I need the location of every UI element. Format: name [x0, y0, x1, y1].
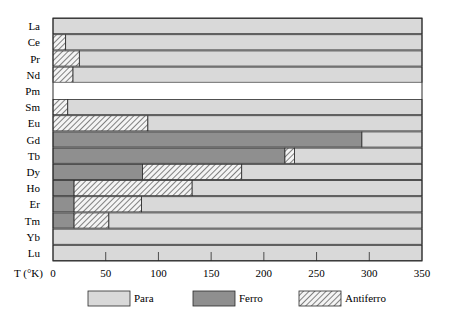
row-label: La [28, 20, 40, 32]
legend-item-antiferro: Antiferro [299, 291, 386, 306]
segment-ferro [53, 197, 74, 212]
segment-ferro [53, 213, 74, 228]
segment-para [294, 148, 422, 163]
legend-label: Para [134, 292, 154, 304]
segment-antiferro [53, 67, 73, 82]
segment-para [53, 229, 422, 244]
row-eu: Eu [28, 116, 422, 131]
segment-antiferro [74, 197, 141, 212]
chart-rows: LaCePrNdPmSmEuGdTbDyHoErTmYbLu [25, 18, 422, 261]
tick-label: 50 [100, 267, 112, 279]
segment-ferro [53, 164, 143, 179]
row-label: Er [30, 198, 41, 210]
row-yb: Yb [27, 229, 422, 244]
row-label: Tm [25, 215, 41, 227]
legend-item-para: Para [88, 291, 154, 306]
row-nd: Nd [27, 67, 422, 82]
row-dy: Dy [27, 164, 422, 179]
empty-bar [53, 83, 422, 99]
row-er: Er [30, 197, 422, 212]
segment-ferro [53, 148, 285, 163]
row-la: La [28, 19, 422, 34]
row-label: Nd [27, 69, 41, 81]
segment-antiferro [74, 213, 109, 228]
segment-para [66, 35, 422, 50]
row-lu: Lu [28, 245, 422, 260]
legend-swatch [193, 291, 235, 306]
segment-para [73, 67, 422, 82]
tick-label: 250 [308, 267, 325, 279]
segment-para [53, 19, 422, 34]
row-label: Dy [27, 166, 41, 178]
tick-label: 200 [256, 267, 273, 279]
row-label: Ho [27, 182, 41, 194]
legend-swatch [88, 291, 130, 306]
row-label: Sm [25, 101, 40, 113]
tick-label: 300 [361, 267, 378, 279]
x-axis-label: T (°K) [14, 267, 43, 280]
row-tb: Tb [28, 148, 422, 163]
tick-label: 0 [50, 267, 56, 279]
segment-antiferro [53, 51, 79, 66]
row-label: Pr [30, 53, 40, 65]
segment-para [142, 197, 422, 212]
legend-swatch [299, 291, 341, 306]
row-label: Gd [27, 134, 41, 146]
legend-item-ferro: Ferro [193, 291, 263, 306]
row-pr: Pr [30, 51, 422, 66]
legend-label: Ferro [239, 292, 263, 304]
segment-ferro [53, 181, 74, 196]
legend: ParaFerroAntiferro [88, 291, 386, 306]
segment-antiferro [143, 164, 242, 179]
row-label: Tb [28, 150, 41, 162]
segment-para [242, 164, 422, 179]
row-label: Lu [28, 247, 41, 259]
segment-para [362, 132, 422, 147]
segment-antiferro [74, 181, 192, 196]
segment-para [53, 245, 422, 260]
row-ce: Ce [28, 35, 422, 50]
tick-label: 100 [150, 267, 167, 279]
row-label: Pm [25, 85, 40, 97]
segment-antiferro [53, 100, 68, 115]
row-gd: Gd [27, 132, 422, 147]
row-ho: Ho [27, 181, 422, 196]
segment-antiferro [285, 148, 294, 163]
row-tm: Tm [25, 213, 422, 228]
segment-antiferro [53, 35, 66, 50]
segment-para [79, 51, 422, 66]
phase-chart: LaCePrNdPmSmEuGdTbDyHoErTmYbLu T (°K)050… [0, 0, 454, 322]
segment-para [68, 100, 422, 115]
segment-para [148, 116, 422, 131]
row-pm: Pm [25, 83, 422, 99]
segment-para [192, 181, 422, 196]
legend-label: Antiferro [345, 292, 386, 304]
row-label: Yb [27, 231, 41, 243]
row-label: Ce [28, 36, 40, 48]
tick-label: 350 [414, 267, 431, 279]
segment-para [109, 213, 422, 228]
tick-label: 150 [203, 267, 220, 279]
row-label: Eu [28, 117, 41, 129]
segment-ferro [53, 132, 362, 147]
row-sm: Sm [25, 100, 422, 115]
segment-antiferro [53, 116, 148, 131]
